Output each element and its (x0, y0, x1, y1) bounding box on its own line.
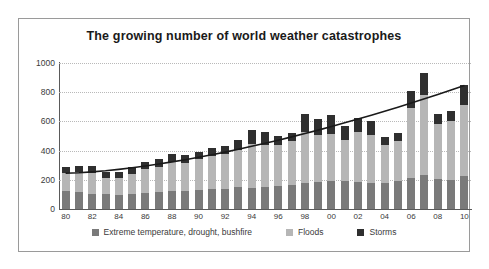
bar-stack (288, 133, 296, 209)
x-axis-tick-label: 86 (135, 212, 155, 221)
bar-segment (168, 162, 176, 191)
legend-item[interactable]: Floods (286, 227, 324, 237)
bar-segment (234, 140, 242, 150)
bar-segment (407, 108, 415, 178)
bar-segment (434, 114, 442, 123)
bar-stack (301, 114, 309, 209)
bar-stack (381, 137, 389, 209)
bar-segment (381, 145, 389, 184)
bar-segment (354, 182, 362, 209)
bar-stack (181, 155, 189, 209)
bar-segment (181, 191, 189, 209)
bar-stack (314, 119, 322, 210)
bar-stack (168, 154, 176, 209)
bar-segment (261, 187, 269, 209)
bar-stack (221, 146, 229, 209)
bar-segment (181, 163, 189, 191)
bar-segment (75, 192, 83, 209)
bar-segment (128, 194, 136, 209)
gridline (59, 63, 471, 64)
chart-legend: Extreme temperature, drought, bushfireFl… (19, 227, 469, 237)
legend-swatch-icon (357, 229, 364, 236)
bar-segment (261, 145, 269, 187)
bar-segment (168, 191, 176, 209)
bar-stack (195, 152, 203, 209)
x-axis-tick-label: 92 (215, 212, 235, 221)
bar-stack (274, 136, 282, 209)
bar-stack (434, 114, 442, 209)
bar-segment (394, 181, 402, 209)
bar-segment (208, 156, 216, 189)
bar-stack (407, 91, 415, 209)
x-axis-tick-label: 80 (56, 212, 76, 221)
plot-area (59, 63, 471, 209)
x-axis-tick-label: 98 (295, 212, 315, 221)
bar-segment (354, 132, 362, 182)
y-axis-tick-label: 200 (21, 175, 55, 185)
chart-frame: The growing number of world weather cata… (18, 18, 470, 252)
bar-segment (341, 181, 349, 209)
bar-segment (341, 126, 349, 141)
bar-segment (234, 150, 242, 187)
bar-segment (367, 135, 375, 183)
bar-segment (88, 194, 96, 209)
bar-segment (420, 95, 428, 175)
bar-segment (327, 181, 335, 209)
bar-segment (195, 159, 203, 190)
bar-segment (128, 174, 136, 194)
bar-segment (221, 146, 229, 155)
bar-segment (75, 172, 83, 192)
bar-stack (394, 133, 402, 209)
bar-segment (420, 175, 428, 209)
bar-segment (141, 162, 149, 169)
bar-stack (367, 121, 375, 209)
bar-segment (447, 180, 455, 209)
bar-segment (248, 144, 256, 188)
bar-segment (261, 132, 269, 145)
bar-segment (407, 178, 415, 209)
x-axis-line (59, 209, 472, 210)
bar-segment (168, 154, 176, 162)
bar-stack (115, 172, 123, 209)
bar-stack (447, 111, 455, 209)
bar-segment (407, 91, 415, 108)
bar-segment (288, 185, 296, 209)
bar-stack (141, 162, 149, 209)
bar-segment (314, 182, 322, 209)
bar-stack (261, 132, 269, 209)
legend-label: Extreme temperature, drought, bushfire (104, 227, 252, 237)
y-axis-tick-label: 400 (21, 146, 55, 156)
bar-stack (208, 148, 216, 209)
bar-segment (221, 154, 229, 188)
bar-stack (460, 85, 468, 209)
legend-item[interactable]: Extreme temperature, drought, bushfire (92, 227, 252, 237)
bar-segment (381, 137, 389, 145)
bar-stack (248, 130, 256, 209)
bar-segment (208, 189, 216, 209)
bar-stack (88, 166, 96, 209)
bar-segment (141, 193, 149, 209)
bar-segment (274, 186, 282, 209)
bar-segment (274, 145, 282, 186)
bar-segment (460, 105, 468, 177)
bar-segment (434, 124, 442, 179)
x-axis-tick-label: 94 (242, 212, 262, 221)
bar-segment (88, 173, 96, 194)
legend-label: Storms (369, 227, 396, 237)
legend-item[interactable]: Storms (357, 227, 396, 237)
bar-segment (181, 155, 189, 163)
bar-segment (155, 192, 163, 209)
bar-segment (234, 187, 242, 209)
bar-segment (394, 133, 402, 141)
x-axis-tick-label: 82 (82, 212, 102, 221)
x-axis-tick-label: 04 (375, 212, 395, 221)
bar-segment (155, 167, 163, 193)
bar-stack (234, 140, 242, 209)
bar-segment (460, 176, 468, 209)
bar-stack (327, 115, 335, 209)
bar-segment (460, 85, 468, 105)
bar-stack (75, 166, 83, 209)
bar-segment (274, 136, 282, 145)
bar-segment (115, 178, 123, 196)
bar-segment (288, 133, 296, 141)
